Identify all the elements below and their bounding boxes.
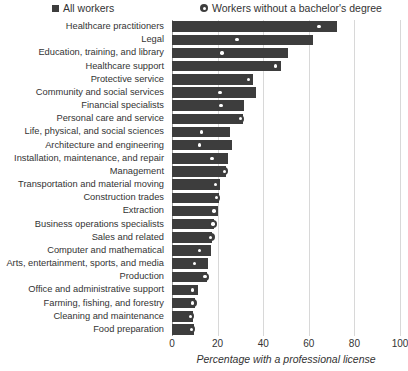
category-label: Food preparation <box>93 324 164 334</box>
x-tick-label: 100 <box>392 338 408 349</box>
x-axis-ticks: 020406080100 <box>172 338 400 352</box>
chart-row <box>172 270 400 283</box>
category-label: Extraction <box>123 205 164 215</box>
chart-legend: All workers Workers without a bachelor's… <box>0 0 397 18</box>
category-label: Education, training, and library <box>38 47 164 57</box>
chart-row <box>172 46 400 59</box>
chart-row <box>172 257 400 270</box>
plot-area <box>172 20 400 336</box>
legend-label-all-workers: All workers <box>63 2 114 14</box>
chart-row <box>172 60 400 73</box>
marker-no-bachelors <box>207 233 215 241</box>
category-label: Architecture and engineering <box>45 140 164 150</box>
marker-no-bachelors <box>189 299 197 307</box>
marker-no-bachelors <box>186 312 194 320</box>
bar-all-workers <box>172 48 288 59</box>
marker-no-bachelors <box>191 260 199 268</box>
chart-row <box>172 86 400 99</box>
category-label: Protective service <box>91 74 164 84</box>
category-label: Construction trades <box>83 192 164 202</box>
data-rows <box>172 20 400 336</box>
chart-row <box>172 323 400 336</box>
category-label: Production <box>120 271 164 281</box>
category-label: Farming, fishing, and forestry <box>44 298 164 308</box>
marker-no-bachelors <box>212 194 220 202</box>
marker-no-bachelors <box>187 325 195 333</box>
marker-no-bachelors <box>209 220 217 228</box>
marker-no-bachelors <box>217 102 225 110</box>
category-label: Management <box>110 166 164 176</box>
chart-row <box>172 165 400 178</box>
marker-no-bachelors <box>233 36 241 44</box>
bar-all-workers <box>172 74 253 85</box>
chart-row <box>172 244 400 257</box>
marker-no-bachelors <box>315 23 323 31</box>
chart-row <box>172 152 400 165</box>
x-tick-label: 80 <box>349 338 360 349</box>
legend-label-no-bachelors: Workers without a bachelor's degree <box>212 2 382 14</box>
marker-no-bachelors <box>189 286 197 294</box>
category-label: Cleaning and maintenance <box>53 311 164 321</box>
bar-all-workers <box>172 166 226 177</box>
category-label: Community and social services <box>36 87 164 97</box>
x-tick-label: 0 <box>169 338 175 349</box>
chart-row <box>172 218 400 231</box>
category-label: Life, physical, and social sciences <box>24 126 164 136</box>
x-axis-title: Percentage with a professional license <box>172 353 400 365</box>
bar-all-workers <box>172 21 337 32</box>
x-tick-label: 40 <box>258 338 269 349</box>
category-label: Transportation and material moving <box>18 179 164 189</box>
chart-row <box>172 33 400 46</box>
category-label: Legal <box>141 34 164 44</box>
marker-no-bachelors <box>220 167 228 175</box>
marker-no-bachelors <box>236 115 244 123</box>
category-label: Healthcare support <box>85 61 164 71</box>
bar-all-workers <box>172 35 313 46</box>
chart-row <box>172 310 400 323</box>
bar-all-workers <box>172 114 243 125</box>
category-label: Financial specialists <box>81 100 164 110</box>
chart-row <box>172 297 400 310</box>
bar-all-workers <box>172 100 244 111</box>
chart-row <box>172 73 400 86</box>
x-tick-label: 20 <box>212 338 223 349</box>
chart-row <box>172 125 400 138</box>
category-label: Installation, maintenance, and repair <box>14 153 164 163</box>
category-axis-labels: Healthcare practitionersLegalEducation, … <box>0 20 168 336</box>
chart-row <box>172 178 400 191</box>
bar-all-workers <box>172 61 281 72</box>
marker-no-bachelors <box>201 273 209 281</box>
chart-row <box>172 231 400 244</box>
category-label: Office and administrative support <box>28 284 164 294</box>
chart-row <box>172 112 400 125</box>
bar-all-workers <box>172 219 214 230</box>
legend-item-no-bachelors: Workers without a bachelor's degree <box>200 2 382 14</box>
legend-item-all-workers: All workers <box>52 2 114 14</box>
marker-no-bachelors <box>198 128 206 136</box>
gridline <box>400 20 401 336</box>
filled-circle-marker-icon <box>200 4 208 12</box>
category-label: Healthcare practitioners <box>66 21 164 31</box>
chart-row <box>172 139 400 152</box>
chart-row <box>172 283 400 296</box>
bar-all-workers <box>172 87 256 98</box>
filled-square-marker-icon <box>52 5 59 12</box>
x-tick-label: 60 <box>303 338 314 349</box>
category-label: Business operations specialists <box>35 219 164 229</box>
marker-no-bachelors <box>272 62 280 70</box>
chart-row <box>172 204 400 217</box>
category-label: Computer and mathematical <box>47 245 164 255</box>
bar-all-workers <box>172 153 228 164</box>
bar-all-workers <box>172 232 212 243</box>
chart-row <box>172 99 400 112</box>
bar-all-workers <box>172 245 211 256</box>
chart-row <box>172 20 400 33</box>
marker-no-bachelors <box>211 181 219 189</box>
chart-row <box>172 191 400 204</box>
category-label: Arts, entertainment, sports, and media <box>6 258 164 268</box>
category-label: Personal care and service <box>57 113 165 123</box>
category-label: Sales and related <box>92 232 164 242</box>
